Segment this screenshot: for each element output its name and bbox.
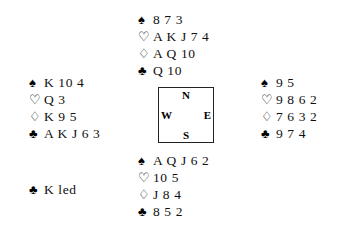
spade-icon: ♠	[138, 152, 153, 169]
east-heart-row: ♡ 9 8 6 2	[261, 91, 317, 108]
north-diamonds: A Q 10	[153, 45, 196, 62]
heart-icon: ♡	[138, 28, 153, 45]
west-heart-row: ♡ Q 3	[29, 91, 100, 108]
east-diamond-row: ♢ 7 6 3 2	[261, 108, 317, 125]
south-hearts: 10 5	[153, 169, 179, 186]
compass-east-label: E	[204, 109, 211, 121]
opening-lead-note: ♣ K led	[29, 181, 77, 198]
west-diamond-row: ♢ K 9 5	[29, 108, 100, 125]
south-diamonds: J 8 4	[153, 186, 182, 203]
club-icon: ♣	[29, 181, 44, 198]
east-club-row: ♣ 9 7 4	[261, 125, 317, 142]
south-heart-row: ♡ 10 5	[138, 169, 209, 186]
south-diamond-row: ♢ J 8 4	[138, 186, 209, 203]
north-heart-row: ♡ A K J 7 4	[138, 28, 209, 45]
hand-south: ♠ A Q J 6 2 ♡ 10 5 ♢ J 8 4 ♣ 8 5 2	[138, 152, 209, 220]
club-icon: ♣	[261, 125, 276, 142]
compass-box: N W E S	[158, 87, 214, 143]
diamond-icon: ♢	[261, 108, 276, 125]
west-hearts: Q 3	[44, 91, 66, 108]
hand-north: ♠ 8 7 3 ♡ A K J 7 4 ♢ A Q 10 ♣ Q 10	[138, 11, 209, 79]
compass-south-label: S	[183, 129, 189, 141]
east-clubs: 9 7 4	[276, 125, 306, 142]
east-hearts: 9 8 6 2	[276, 91, 317, 108]
south-spades: A Q J 6 2	[153, 152, 209, 169]
east-spade-row: ♠ 9 5	[261, 74, 317, 91]
north-diamond-row: ♢ A Q 10	[138, 45, 209, 62]
west-club-row: ♣ A K J 6 3	[29, 125, 100, 142]
north-spade-row: ♠ 8 7 3	[138, 11, 209, 28]
spade-icon: ♠	[138, 11, 153, 28]
club-icon: ♣	[29, 125, 44, 142]
north-club-row: ♣ Q 10	[138, 62, 209, 79]
club-icon: ♣	[138, 62, 153, 79]
hand-east: ♠ 9 5 ♡ 9 8 6 2 ♢ 7 6 3 2 ♣ 9 7 4	[261, 74, 317, 142]
north-spades: 8 7 3	[153, 11, 183, 28]
diamond-icon: ♢	[138, 186, 153, 203]
north-clubs: Q 10	[153, 62, 182, 79]
spade-icon: ♠	[29, 74, 44, 91]
opening-lead-text: K led	[44, 181, 77, 198]
club-icon: ♣	[138, 203, 153, 220]
diamond-icon: ♢	[29, 108, 44, 125]
west-spade-row: ♠ K 10 4	[29, 74, 100, 91]
heart-icon: ♡	[261, 91, 276, 108]
west-spades: K 10 4	[44, 74, 84, 91]
west-diamonds: K 9 5	[44, 108, 77, 125]
heart-icon: ♡	[29, 91, 44, 108]
south-clubs: 8 5 2	[153, 203, 183, 220]
east-spades: 9 5	[276, 74, 295, 91]
north-hearts: A K J 7 4	[153, 28, 209, 45]
heart-icon: ♡	[138, 169, 153, 186]
west-clubs: A K J 6 3	[44, 125, 100, 142]
bridge-hand-diagram: ♠ 8 7 3 ♡ A K J 7 4 ♢ A Q 10 ♣ Q 10 ♠ K …	[0, 0, 345, 230]
east-diamonds: 7 6 3 2	[276, 108, 317, 125]
south-spade-row: ♠ A Q J 6 2	[138, 152, 209, 169]
compass-north-label: N	[182, 89, 190, 101]
spade-icon: ♠	[261, 74, 276, 91]
hand-west: ♠ K 10 4 ♡ Q 3 ♢ K 9 5 ♣ A K J 6 3	[29, 74, 100, 142]
diamond-icon: ♢	[138, 45, 153, 62]
south-club-row: ♣ 8 5 2	[138, 203, 209, 220]
compass-west-label: W	[161, 109, 172, 121]
